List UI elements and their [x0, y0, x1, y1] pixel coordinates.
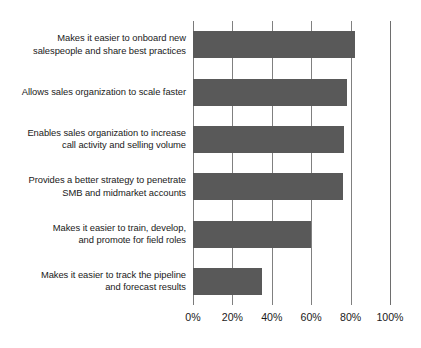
category-label: Makes it easier to onboard newsalespeopl…: [0, 32, 186, 57]
category-label: Enables sales organization to increaseca…: [0, 127, 186, 152]
category-label: Provides a better strategy to penetrateS…: [0, 174, 186, 199]
x-tick-label: 60%: [301, 310, 322, 324]
plot-area: [193, 21, 390, 305]
gridline-40pct: [272, 21, 273, 305]
bar[interactable]: [193, 79, 347, 106]
category-label-line: Allows sales organization to scale faste…: [0, 86, 186, 98]
bar-band: [193, 221, 390, 248]
category-label-line: and promote for field roles: [0, 234, 186, 246]
bar-band: [193, 126, 390, 153]
bar-band: [193, 173, 390, 200]
category-label-line: Provides a better strategy to penetrate: [0, 174, 186, 186]
bar-chart: Makes it easier to onboard newsalespeopl…: [0, 0, 421, 348]
gridline-80pct: [351, 21, 352, 305]
category-label-line: SMB and midmarket accounts: [0, 187, 186, 199]
category-label: Allows sales organization to scale faste…: [0, 86, 186, 98]
category-label-line: salespeople and share best practices: [0, 45, 186, 57]
category-label-line: Makes it easier to train, develop,: [0, 222, 186, 234]
category-labels: Makes it easier to onboard newsalespeopl…: [0, 21, 186, 305]
gridline-0pct: [193, 21, 194, 305]
category-label-line: Makes it easier to track the pipeline: [0, 269, 186, 281]
gridline-60pct: [311, 21, 312, 305]
x-axis-tick-labels: 0%20%40%60%80%100%: [193, 310, 390, 330]
bar-band: [193, 79, 390, 106]
category-label-line: Enables sales organization to increase: [0, 127, 186, 139]
bar-band: [193, 31, 390, 58]
gridline-100pct: [390, 21, 391, 305]
x-tick-label: 40%: [261, 310, 282, 324]
bar[interactable]: [193, 173, 343, 200]
x-tick-label: 20%: [222, 310, 243, 324]
category-label-line: Makes it easier to onboard new: [0, 32, 186, 44]
category-label-line: and forecast results: [0, 281, 186, 293]
bar[interactable]: [193, 126, 344, 153]
x-tick-label: 100%: [376, 310, 403, 324]
bar-band: [193, 268, 390, 295]
category-label: Makes it easier to track the pipelineand…: [0, 269, 186, 294]
gridline-20pct: [232, 21, 233, 305]
x-tick-label: 0%: [185, 310, 200, 324]
category-label-line: call activity and selling volume: [0, 139, 186, 151]
bar[interactable]: [193, 31, 355, 58]
x-tick-label: 80%: [340, 310, 361, 324]
category-label: Makes it easier to train, develop,and pr…: [0, 222, 186, 247]
bar[interactable]: [193, 268, 262, 295]
bar[interactable]: [193, 221, 311, 248]
